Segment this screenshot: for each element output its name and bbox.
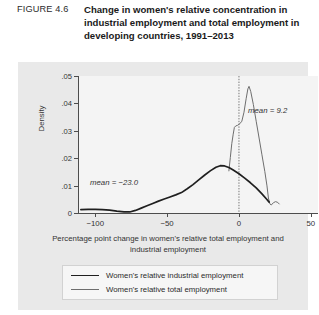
chart-legend: Women's relative industrial employment W… — [62, 265, 278, 300]
figure-title: Change in women's relative concentration… — [84, 3, 314, 43]
annotation-mean-total: mean = 9.2 — [248, 106, 287, 115]
legend-line-icon-industrial — [71, 275, 99, 276]
legend-item-total: Women's relative total employment — [71, 282, 227, 296]
figure-number-label: FIGURE 4.6 — [17, 4, 69, 14]
legend-label-total: Women's relative total employment — [106, 285, 227, 294]
x-tick-mark-3 — [311, 213, 312, 217]
chart-panel: 0 .01 .02 .03 .04 .05 −100 −50 0 50 Dens… — [18, 62, 308, 310]
legend-item-industrial: Women's relative industrial employment — [71, 268, 243, 282]
annotation-mean-industrial: mean = −23.0 — [90, 178, 138, 187]
legend-label-industrial: Women's relative industrial employment — [106, 271, 243, 280]
curve-industrial-employment — [81, 166, 269, 212]
legend-line-icon-total — [71, 289, 99, 290]
figure-page: FIGURE 4.6 Change in women's relative co… — [0, 0, 319, 315]
curve-total-employment — [229, 86, 279, 205]
figure-header: FIGURE 4.6 Change in women's relative co… — [0, 0, 319, 60]
